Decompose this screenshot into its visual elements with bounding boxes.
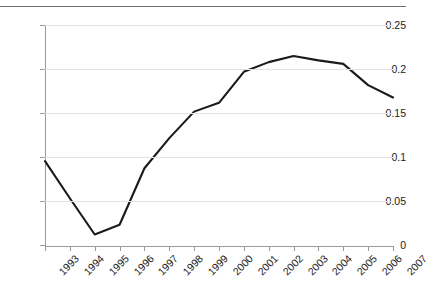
x-tick-mark <box>368 246 369 251</box>
x-tick-mark <box>343 246 344 251</box>
x-axis-label-1998: 1998 <box>181 253 205 277</box>
x-axis-label-1996: 1996 <box>131 253 155 277</box>
x-axis-label-1997: 1997 <box>156 253 180 277</box>
x-tick-mark <box>269 246 270 251</box>
x-axis-label-1994: 1994 <box>82 253 106 277</box>
gridline-0.15 <box>45 113 393 114</box>
x-axis-label-2007: 2007 <box>405 253 429 277</box>
top-rule-divider <box>0 6 406 7</box>
x-axis-label-2002: 2002 <box>281 253 305 277</box>
x-axis-label-2005: 2005 <box>355 253 379 277</box>
gridline-0.2 <box>45 69 393 70</box>
x-axis-label-2004: 2004 <box>330 253 354 277</box>
x-axis-label-1993: 1993 <box>57 253 81 277</box>
x-tick-mark <box>144 246 145 251</box>
x-axis-label-2000: 2000 <box>231 253 255 277</box>
x-tick-mark <box>120 246 121 251</box>
x-tick-mark <box>318 246 319 251</box>
x-axis-label-2001: 2001 <box>256 253 280 277</box>
x-tick-mark <box>219 246 220 251</box>
x-tick-mark <box>393 246 394 251</box>
gridline-0.05 <box>45 201 393 202</box>
x-tick-mark <box>244 246 245 251</box>
series-line-chart <box>45 25 393 246</box>
series-line-1 <box>45 56 393 235</box>
plot-area <box>45 25 393 246</box>
x-tick-mark <box>194 246 195 251</box>
x-tick-mark <box>70 246 71 251</box>
x-tick-mark <box>294 246 295 251</box>
x-axis-label-1999: 1999 <box>206 253 230 277</box>
x-tick-mark <box>45 246 46 251</box>
x-tick-mark <box>95 246 96 251</box>
x-tick-mark <box>169 246 170 251</box>
x-axis-label-2006: 2006 <box>380 253 404 277</box>
gridline-0.1 <box>45 157 393 158</box>
x-axis-label-1995: 1995 <box>107 253 131 277</box>
x-axis-label-2003: 2003 <box>305 253 329 277</box>
gridline-0.25 <box>45 25 393 26</box>
